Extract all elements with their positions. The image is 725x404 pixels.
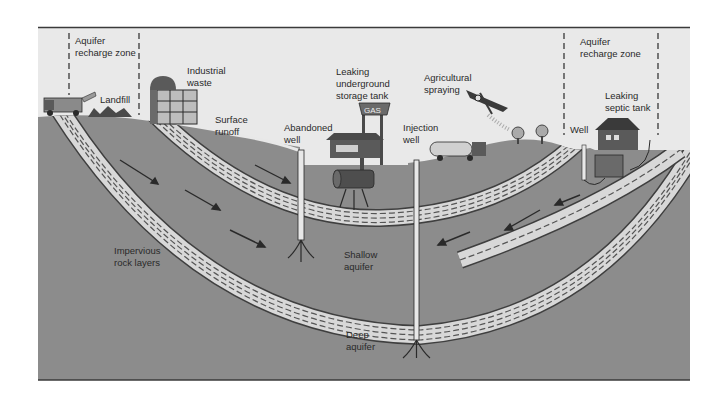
groundwater-contamination-diagram: Aquifer recharge zone Landfill Industria… bbox=[0, 0, 725, 404]
label-deep-aquifer: Deep aquifer bbox=[346, 329, 375, 352]
label-well: Well bbox=[570, 124, 588, 135]
label-gas-sign: GAS bbox=[364, 106, 381, 115]
label-landfill: Landfill bbox=[100, 94, 130, 105]
label-impervious-rock-layers: Impervious rock layers bbox=[114, 245, 163, 268]
